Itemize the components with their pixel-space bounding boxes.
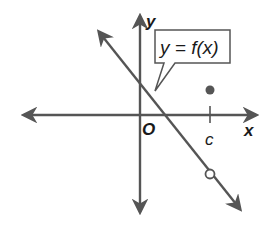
x-axis-label: x — [243, 121, 255, 140]
callout-label: y = f(x) — [158, 37, 219, 58]
filled-point — [206, 86, 215, 95]
graph-canvas: y = f(x) y x O c — [0, 0, 277, 228]
open-circle-hole — [206, 170, 215, 179]
c-label: c — [205, 130, 214, 149]
origin-label: O — [142, 120, 155, 139]
y-axis-label: y — [145, 12, 157, 31]
